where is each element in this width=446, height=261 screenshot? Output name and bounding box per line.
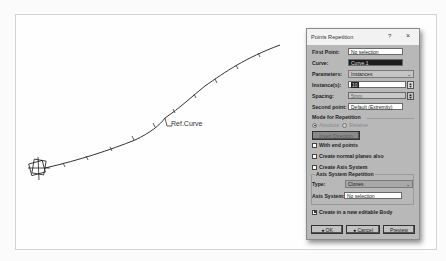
- help-icon[interactable]: ?: [388, 33, 391, 39]
- dialog-titlebar[interactable]: Points Repetition ? ×: [307, 29, 419, 45]
- create-axis-system-label: Create Axis System: [319, 164, 367, 170]
- second-point-field[interactable]: Default (Extremity): [348, 103, 403, 110]
- ok-button[interactable]: ● OK: [311, 225, 343, 234]
- type-value: Clones: [348, 181, 364, 187]
- second-point-label: Second point:: [312, 104, 347, 110]
- axis-system-label: Axis System:: [312, 193, 345, 199]
- absolute-radio[interactable]: [312, 123, 317, 128]
- create-new-body-checkbox[interactable]: [312, 210, 317, 215]
- instances-spinner[interactable]: ▲▼: [407, 81, 414, 89]
- create-axis-system-checkbox[interactable]: [312, 165, 317, 170]
- relative-radio[interactable]: [342, 123, 347, 128]
- mode-label: Mode for Repetition: [312, 114, 361, 120]
- ref-curve: [45, 45, 280, 168]
- spacing-label: Spacing:: [312, 93, 334, 99]
- axis-system-field[interactable]: No selection: [344, 192, 402, 199]
- type-dropdown[interactable]: Clones ⌄: [345, 180, 413, 188]
- instances-label: Instance(s):: [312, 82, 341, 88]
- axis-group-label: Axis System Repetition: [316, 171, 374, 177]
- parameters-label: Parameters:: [312, 71, 342, 77]
- parameters-value: Instances: [351, 71, 372, 77]
- cancel-button[interactable]: ● Cancel: [346, 225, 380, 234]
- spacing-field[interactable]: 5mm: [348, 92, 406, 99]
- instances-field[interactable]: 10: [348, 81, 406, 88]
- curve-label: Ref.Curve: [171, 120, 203, 127]
- invert-direction-button[interactable]: Invert Direction: [312, 131, 360, 140]
- chevron-down-icon: ⌄: [407, 71, 411, 78]
- parameters-dropdown[interactable]: Instances ⌄: [348, 70, 414, 78]
- absolute-label: Absolute: [319, 122, 339, 128]
- point-markers: [63, 53, 260, 167]
- with-end-points-checkbox[interactable]: [312, 143, 317, 148]
- chevron-down-icon: ⌄: [406, 181, 410, 188]
- instances-value: 10: [351, 82, 359, 88]
- points-repetition-dialog: Points Repetition ? × First Point: No se…: [306, 28, 420, 240]
- spacing-spinner[interactable]: ▲▼: [407, 92, 414, 100]
- mode-separator: [367, 118, 414, 119]
- axis-system-icon: [28, 157, 50, 180]
- first-point-label: First Point:: [312, 49, 339, 55]
- curve-label-text: Curve:: [312, 60, 328, 66]
- curve-field[interactable]: Curve.1: [348, 59, 403, 66]
- with-end-points-label: With end points: [319, 142, 358, 148]
- preview-button[interactable]: Preview: [383, 225, 415, 234]
- type-label: Type:: [312, 181, 325, 187]
- close-icon[interactable]: ×: [406, 32, 410, 39]
- ok-label: OK: [326, 227, 333, 233]
- axis-system-repetition-group: [311, 174, 414, 205]
- dialog-title: Points Repetition: [311, 34, 353, 40]
- cancel-label: Cancel: [357, 227, 373, 233]
- create-new-body-label: Create in a new editable Body: [319, 209, 393, 215]
- create-normal-planes-checkbox[interactable]: [312, 154, 317, 159]
- relative-label: Relative: [349, 122, 368, 128]
- first-point-field[interactable]: No selection: [348, 48, 403, 55]
- create-normal-planes-label: Create normal planes also: [319, 153, 384, 159]
